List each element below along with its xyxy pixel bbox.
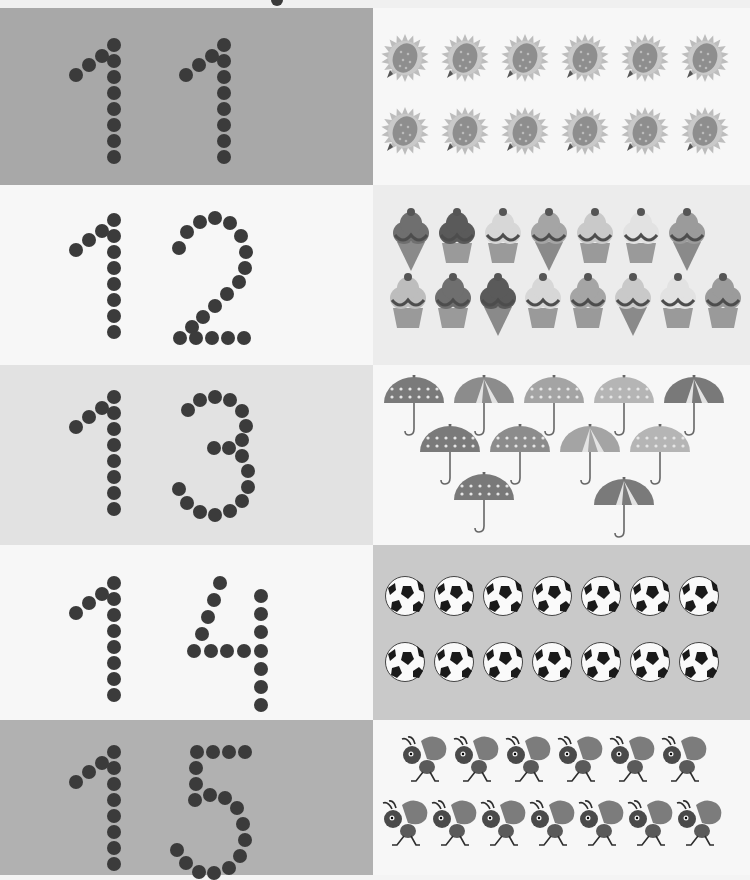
ant-icon <box>676 798 724 852</box>
trace-dot <box>180 225 194 239</box>
trace-dot <box>217 86 231 100</box>
dotted-number-panel: 11 <box>0 8 373 185</box>
trace-dot <box>254 644 268 658</box>
trace-dot <box>189 331 203 345</box>
trace-dot <box>254 698 268 712</box>
dotted-number-panel: 13 <box>0 365 373 545</box>
sunflower-icon <box>377 30 433 90</box>
trace-dot <box>207 441 221 455</box>
trace-dot <box>223 216 237 230</box>
number-row-13: 13 <box>0 365 750 545</box>
trace-dot <box>238 745 252 759</box>
trace-dot <box>201 610 215 624</box>
ice-cream-icon <box>389 207 433 277</box>
soccer-ball-icon <box>531 575 573 621</box>
trace-dot <box>254 607 268 621</box>
dotted-digit-5 <box>0 720 373 875</box>
ant-icon <box>505 734 553 788</box>
soccer-ball-icon <box>629 575 671 621</box>
umbrella-icon <box>593 477 655 543</box>
trace-dot <box>188 793 202 807</box>
trace-dot <box>217 134 231 148</box>
ice-cream-icon <box>481 207 525 277</box>
ant-icon <box>401 734 449 788</box>
trace-dot <box>222 745 236 759</box>
ice-cream-icon <box>665 207 709 277</box>
sunflower-icon <box>677 103 733 163</box>
ant-icon <box>627 798 675 852</box>
ice-cream-icon <box>566 272 610 342</box>
sunflower-icon <box>497 30 553 90</box>
ice-cream-icon <box>573 207 617 277</box>
trace-dot <box>192 865 206 879</box>
sunflower-icon <box>617 30 673 90</box>
trace-dot <box>207 866 221 880</box>
trace-dot <box>235 449 249 463</box>
soccer-ball-icon <box>678 575 720 621</box>
sunflower-icon <box>617 103 673 163</box>
trace-dot <box>230 801 244 815</box>
trace-dot <box>189 777 203 791</box>
sunflower-icon <box>557 103 613 163</box>
ice-cream-icon <box>701 272 745 342</box>
trace-dot <box>217 102 231 116</box>
trace-dot <box>173 331 187 345</box>
sunflower-icon <box>437 103 493 163</box>
trace-dot <box>180 496 194 510</box>
trace-dot <box>237 331 251 345</box>
dotted-number-panel: 14 <box>0 545 373 720</box>
trace-dot <box>193 393 207 407</box>
counting-pictures-panel <box>373 720 750 875</box>
trace-dot <box>254 625 268 639</box>
trace-dot <box>235 494 249 508</box>
ant-icon <box>480 798 528 852</box>
ant-icon <box>609 734 657 788</box>
ice-cream-icon <box>656 272 700 342</box>
trace-dot <box>235 404 249 418</box>
trace-dot <box>237 644 251 658</box>
ice-cream-icon <box>435 207 479 277</box>
number-row-15: 15 <box>0 720 750 875</box>
ice-cream-icon <box>431 272 475 342</box>
counting-pictures-panel <box>373 8 750 185</box>
trace-dot <box>172 241 186 255</box>
trace-dot <box>189 761 203 775</box>
soccer-ball-icon <box>678 641 720 687</box>
trace-dot <box>233 849 247 863</box>
trace-dot <box>221 331 235 345</box>
soccer-ball-icon <box>580 641 622 687</box>
dotted-digit-1 <box>0 8 373 185</box>
trace-dot <box>241 480 255 494</box>
trace-dot <box>187 644 201 658</box>
trace-dot <box>193 505 207 519</box>
trace-dot <box>235 433 249 447</box>
sunflower-icon <box>377 103 433 163</box>
trace-dot <box>223 504 237 518</box>
trace-dot <box>192 58 206 72</box>
soccer-ball-icon <box>482 575 524 621</box>
trace-dot <box>218 791 232 805</box>
trace-dot <box>217 150 231 164</box>
soccer-ball-icon <box>433 641 475 687</box>
ant-icon <box>578 798 626 852</box>
trace-dot <box>239 419 253 433</box>
counting-pictures-panel <box>373 545 750 720</box>
soccer-ball-icon <box>433 575 475 621</box>
trace-dot <box>222 441 236 455</box>
trace-dot <box>217 54 231 68</box>
ant-icon <box>529 798 577 852</box>
trace-dot <box>179 856 193 870</box>
trace-dot <box>220 644 234 658</box>
sunflower-icon <box>677 30 733 90</box>
trace-dot <box>208 299 222 313</box>
trace-dot <box>254 662 268 676</box>
umbrella-icon <box>453 472 515 538</box>
trace-dot <box>232 275 246 289</box>
trace-dot <box>208 211 222 225</box>
ice-cream-icon <box>527 207 571 277</box>
soccer-ball-icon <box>580 575 622 621</box>
soccer-ball-icon <box>384 575 426 621</box>
dotted-digit-3 <box>0 365 373 545</box>
trace-dot <box>203 788 217 802</box>
ice-cream-icon <box>386 272 430 342</box>
